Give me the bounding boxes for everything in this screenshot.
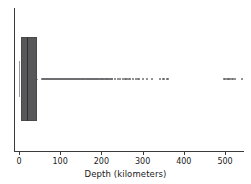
outlier-point <box>241 78 243 80</box>
outlier-point <box>146 78 148 80</box>
median-line <box>27 37 29 121</box>
x-tick-label-400: 400 <box>164 157 204 167</box>
outlier-point <box>166 78 168 80</box>
x-tick-300 <box>143 151 144 155</box>
x-tick-label-0: 0 <box>0 157 39 167</box>
plot-area <box>14 8 244 151</box>
outlier-point <box>114 78 116 80</box>
x-tick-label-500: 500 <box>205 157 245 167</box>
outlier-point <box>142 78 144 80</box>
x-axis-title: Depth (kilometers) <box>0 169 251 179</box>
outlier-point <box>128 78 130 80</box>
x-tick-label-200: 200 <box>81 157 121 167</box>
boxplot-figure: 0100200300400500 Depth (kilometers) <box>0 0 251 184</box>
outlier-point <box>137 78 139 80</box>
outlier-point <box>234 78 236 80</box>
outlier-point <box>132 78 134 80</box>
outlier-point <box>151 78 153 80</box>
x-tick-label-100: 100 <box>40 157 80 167</box>
x-tick-400 <box>184 151 185 155</box>
box-iqr <box>21 37 38 121</box>
outlier-dense-band <box>42 78 77 80</box>
x-tick-label-300: 300 <box>123 157 163 167</box>
x-tick-200 <box>101 151 102 155</box>
outlier-point <box>159 78 161 80</box>
outlier-point <box>119 78 121 80</box>
outlier-point <box>162 78 164 80</box>
x-axis-spine <box>14 151 244 152</box>
whisker-high-line <box>37 79 38 80</box>
x-tick-500 <box>225 151 226 155</box>
x-tick-100 <box>60 151 61 155</box>
x-tick-0 <box>19 151 20 155</box>
